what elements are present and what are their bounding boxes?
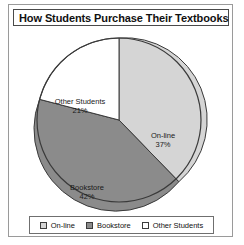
- legend-item-other-students[interactable]: Other Students: [142, 221, 203, 230]
- chart-legend: On-line Bookstore Other Students: [29, 216, 214, 234]
- pie-label-other-students-name: Other Students: [55, 97, 105, 106]
- legend-swatch-on-line-icon: [40, 222, 47, 229]
- pie-chart-plot-area: Other Students 21% On-line 37% Bookstore…: [9, 27, 232, 213]
- chart-title-box: How Students Purchase Their Textbooks: [13, 9, 229, 26]
- pie-label-bookstore-name: Bookstore: [70, 183, 104, 192]
- pie-label-bookstore-percent: 42%: [49, 192, 125, 201]
- legend-label-on-line: On-line: [51, 221, 75, 230]
- pie-label-on-line-percent: 37%: [133, 140, 193, 149]
- legend-swatch-other-students-icon: [142, 222, 149, 229]
- legend-label-bookstore: Bookstore: [97, 221, 131, 230]
- pie-label-on-line-name: On-line: [151, 131, 175, 140]
- pie-label-other-students: Other Students 21%: [37, 97, 123, 116]
- pie-label-other-students-percent: 21%: [37, 106, 123, 115]
- page-title: How Students Purchase Their Textbooks: [14, 12, 228, 24]
- chart-figure: How Students Purchase Their Textbooks Ot…: [8, 4, 233, 237]
- pie-label-bookstore: Bookstore 42%: [49, 183, 125, 202]
- legend-swatch-bookstore-icon: [86, 222, 93, 229]
- legend-item-bookstore[interactable]: Bookstore: [86, 221, 131, 230]
- pie-label-on-line: On-line 37%: [133, 131, 193, 150]
- legend-item-on-line[interactable]: On-line: [40, 221, 75, 230]
- legend-label-other-students: Other Students: [153, 221, 203, 230]
